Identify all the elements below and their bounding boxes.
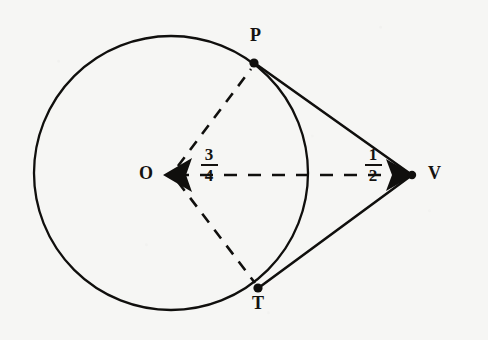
- measure-vertex-numerator: 1: [362, 146, 384, 163]
- point-label-T: T: [252, 294, 264, 312]
- point-label-V: V: [428, 164, 441, 182]
- point-marker-V: [408, 171, 416, 179]
- measure-radius-numerator: 3: [198, 146, 220, 163]
- point-marker-T: [253, 283, 262, 292]
- point-marker-P: [249, 58, 258, 67]
- tangent-TV: [257, 175, 412, 289]
- point-label-P: P: [250, 26, 261, 44]
- tangent-PV: [253, 62, 412, 175]
- measure-label-vertex: 1 2: [362, 146, 384, 185]
- geometry-figure: O P T V 3 4 1 2: [0, 0, 488, 340]
- measure-vertex-denominator: 2: [362, 167, 384, 184]
- measure-label-radius: 3 4: [198, 146, 220, 185]
- measure-radius-denominator: 4: [198, 167, 220, 184]
- diagram-canvas: [0, 0, 488, 340]
- radius-OT-dashed: [178, 182, 255, 283]
- point-label-O: O: [139, 164, 153, 182]
